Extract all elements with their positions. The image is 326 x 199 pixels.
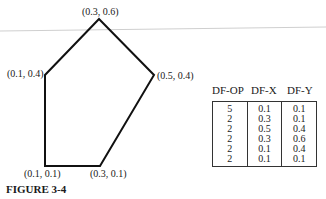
vertex-label-bottom-right: (0.3, 0.1): [90, 168, 127, 179]
display-file-table: 5 2 2 2 2 2 0.1 0.3 0.5 0.3 0.1 0.1 0.1 …: [212, 101, 317, 167]
cell: 0.1: [293, 154, 306, 164]
cell: 2: [227, 154, 232, 164]
vertex-label-left: (0.1, 0.4): [7, 68, 44, 79]
vertex-label-right: (0.5, 0.4): [157, 70, 194, 81]
vertex-label-top: (0.3, 0.6): [82, 6, 119, 17]
scan-line: [0, 27, 326, 31]
pentagon-shape: [45, 19, 154, 166]
column-x: 0.1 0.3 0.5 0.3 0.1 0.1: [247, 102, 282, 166]
cell: 0.1: [258, 154, 271, 164]
column-op: 5 2 2 2 2 2: [213, 102, 247, 166]
table-header-x: DF-X: [251, 84, 277, 96]
table-header-y: DF-Y: [287, 84, 313, 96]
figure-caption: FIGURE 3-4: [6, 183, 66, 195]
table-header-op: DF-OP: [212, 84, 244, 96]
column-y: 0.1 0.1 0.4 0.6 0.4 0.1: [281, 102, 316, 166]
vertex-label-bottom-left: (0.1, 0.1): [24, 168, 61, 179]
